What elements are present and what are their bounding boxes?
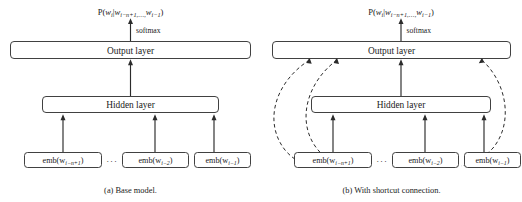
embedding-label-1-sub: i−n+1 [65, 160, 81, 166]
output-layer-label: Output layer [107, 46, 155, 56]
hidden-layer-box: Hidden layer [43, 97, 219, 113]
panel-base-model: P(wi|wi−n+1,…,wi−1) softmax Output layer… [0, 0, 261, 202]
softmax-arrow [399, 18, 404, 41]
embedding-label-3-base: emb(w [475, 156, 498, 165]
panel-caption-b: (b) With shortcut connection. [342, 186, 440, 195]
prob-comma-dots: ,…, [407, 11, 417, 18]
output-layer-box: Output layer [273, 42, 511, 59]
prob-w-last-sub: i−1 [152, 11, 161, 18]
embedding-label-1-base: emb(w [43, 156, 66, 165]
embedding-label-3-sub: i−1 [498, 160, 507, 166]
prob-w-first-sub: i−n+1 [120, 11, 136, 18]
svg-text:P(wi|wi−n+1,…,wi−1): P(wi|wi−n+1,…,wi−1) [368, 7, 434, 18]
softmax-label: softmax [136, 26, 161, 35]
output-layer-box: Output layer [11, 42, 251, 59]
embedding-box-3: emb(wi−1) [195, 153, 251, 168]
embedding-box-1: emb(wi−n+1) [25, 153, 102, 168]
embedding-to-hidden-arrow-3 [212, 114, 217, 152]
embedding-label-2-close: ) [170, 156, 173, 165]
embedding-label-3-close: ) [237, 156, 240, 165]
embedding-to-hidden-arrow-2 [423, 114, 428, 152]
embedding-label-1-close: ) [81, 156, 84, 165]
hidden-layer-box: Hidden layer [312, 97, 491, 113]
prob-p: P( [98, 7, 106, 17]
embedding-label-2-base: emb(w [408, 156, 431, 165]
embedding-label-2-base: emb(w [138, 156, 161, 165]
embedding-box-1: emb(wi−n+1) [295, 153, 372, 168]
embedding-label-3-close: ) [507, 156, 510, 165]
embedding-label-3-base: emb(w [205, 156, 228, 165]
panel-shortcut-model: P(wi|wi−n+1,…,wi−1) softmax Output layer [261, 0, 522, 202]
hidden-layer-label: Hidden layer [106, 100, 156, 110]
embedding-label-1-sub: i−n+1 [335, 160, 351, 166]
hidden-to-output-arrow [128, 59, 133, 96]
prob-close: ) [161, 7, 164, 17]
hidden-layer-label: Hidden layer [377, 100, 427, 110]
prob-comma-dots: ,…, [136, 11, 146, 18]
shortcut-connection-1 [274, 58, 319, 167]
embedding-label-1-close: ) [351, 156, 354, 165]
panel-caption-a: (a) Base model. [104, 186, 157, 195]
embedding-to-hidden-arrow-1 [61, 114, 66, 152]
svg-text:P(wi|wi−n+1,…,wi−1): P(wi|wi−n+1,…,wi−1) [98, 7, 164, 18]
output-layer-label: Output layer [368, 46, 416, 56]
embedding-label-3-sub: i−1 [228, 160, 237, 166]
hidden-to-output-arrow [399, 59, 404, 96]
embedding-to-hidden-arrow-2 [153, 114, 158, 152]
embedding-label-2-sub: i−2 [431, 160, 440, 166]
embedding-box-3: emb(wi−1) [465, 153, 521, 168]
embedding-label-1-base: emb(w [313, 156, 336, 165]
figure-container: P(wi|wi−n+1,…,wi−1) softmax Output layer… [0, 0, 522, 202]
embedding-to-hidden-arrow-1 [331, 114, 336, 152]
embedding-ellipsis: ··· [376, 156, 387, 166]
prob-w-last-sub: i−1 [422, 11, 431, 18]
output-probability-label: P(wi|wi−n+1,…,wi−1) [368, 7, 434, 18]
output-probability-label: P(wi|wi−n+1,…,wi−1) [98, 7, 164, 18]
embedding-box-2: emb(wi−2) [393, 153, 459, 168]
embedding-label-2-sub: i−2 [161, 160, 170, 166]
softmax-arrow [128, 18, 133, 41]
prob-close: ) [431, 7, 434, 17]
softmax-label: softmax [407, 26, 432, 35]
embedding-label-2-close: ) [440, 156, 443, 165]
prob-p: P( [368, 7, 376, 17]
embedding-ellipsis: ··· [106, 156, 117, 166]
embedding-box-2: emb(wi−2) [123, 153, 189, 168]
embedding-to-hidden-arrow-3 [482, 114, 487, 152]
prob-w-first-sub: i−n+1 [391, 11, 407, 18]
